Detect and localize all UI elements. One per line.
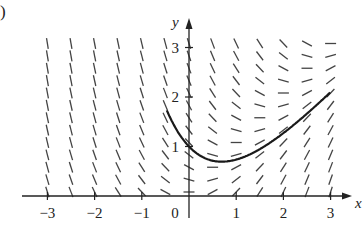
slope-segment (70, 63, 72, 74)
slope-segment (70, 137, 73, 148)
solution-curve (167, 93, 330, 162)
slope-segment (256, 175, 263, 184)
slope-segment (234, 51, 239, 61)
y-axis-label: y (170, 14, 179, 30)
slope-segment (233, 64, 239, 73)
slope-segment (164, 75, 168, 85)
y-tick-label: 3 (172, 40, 180, 56)
x-axis-arrow-icon (342, 193, 352, 200)
slope-segment (209, 101, 216, 110)
slope-segment (94, 38, 96, 49)
slope-segment (280, 151, 287, 160)
slope-segment (232, 89, 240, 97)
slope-segment (280, 163, 286, 172)
slope-segment (280, 40, 288, 48)
slope-segment (93, 112, 96, 123)
slope-segment (117, 75, 120, 86)
slope-segment (69, 174, 73, 184)
slope-segment (117, 38, 119, 49)
slope-segment (140, 63, 143, 74)
slope-segment (279, 52, 288, 59)
slope-segment (163, 100, 167, 110)
slope-segment (233, 76, 240, 85)
slope-segment (208, 140, 218, 145)
slope-segment (232, 102, 241, 109)
slope-segment (329, 162, 333, 172)
slope-segment (256, 64, 264, 72)
slope-segment (93, 125, 96, 136)
slope-segment (46, 75, 48, 86)
x-tick-label: −3 (39, 205, 55, 221)
slope-segment (162, 163, 170, 171)
axis-ticks: −3−2−10123123 (39, 40, 334, 222)
y-axis-arrow-icon (186, 18, 193, 29)
slope-segment (117, 88, 120, 99)
slope-segment (211, 38, 215, 48)
x-axis-label: x (354, 195, 362, 211)
slope-segment (93, 63, 95, 74)
slope-segment (254, 104, 265, 107)
slope-segment (164, 38, 167, 49)
x-tick-label: 1 (232, 205, 240, 221)
slope-segment (302, 41, 312, 46)
slope-segment (255, 90, 265, 95)
slope-segment (305, 175, 309, 185)
slope-segment (326, 77, 335, 84)
slope-segment (257, 187, 263, 196)
slope-segment (139, 138, 144, 148)
slope-segment (280, 139, 288, 147)
slope-segment (255, 77, 264, 84)
slope-segment (326, 66, 336, 71)
slope-segment (93, 100, 96, 111)
slope-segment (207, 178, 218, 181)
slope-field-chart: xy −3−2−10123123 (0, 0, 364, 234)
x-tick-label: −2 (87, 205, 103, 221)
slope-segment (164, 63, 167, 73)
slope-segment (231, 165, 241, 170)
slope-segment (210, 51, 214, 61)
slope-segment (69, 162, 72, 172)
slope-segment (304, 126, 311, 135)
slope-segment (139, 163, 145, 172)
slope-segment (254, 129, 265, 132)
slope-segment (162, 151, 169, 160)
slope-segment (116, 125, 120, 135)
slope-segment (208, 189, 218, 194)
slope-segment (279, 66, 289, 71)
slope-segment (92, 175, 96, 185)
y-tick-label: 1 (172, 139, 180, 155)
slope-segment (139, 150, 144, 160)
slope-segment (70, 50, 72, 61)
slope-segment (93, 150, 97, 160)
slope-segment (46, 174, 49, 185)
slope-segment (70, 125, 73, 136)
slope-segment (140, 51, 143, 62)
slope-segment (164, 51, 167, 62)
slope-segment (305, 162, 310, 172)
slope-segment (278, 79, 289, 82)
slope-segment (70, 112, 73, 123)
slope-segment (328, 150, 332, 160)
slope-segment (210, 88, 216, 97)
slope-segment (327, 101, 334, 110)
x-tick-label: −1 (134, 205, 150, 221)
slope-segment (46, 162, 49, 173)
slope-segment (256, 52, 263, 61)
slope-segment (328, 138, 333, 148)
slope-segment (94, 50, 96, 61)
slope-segment (302, 54, 313, 57)
slope-segment (231, 115, 241, 120)
slope-segment (140, 75, 143, 86)
slope-segment (161, 189, 171, 194)
slope-segment (93, 137, 96, 147)
slope-segment (329, 174, 333, 184)
slope-segment (70, 100, 72, 111)
slope-segment (47, 50, 49, 61)
slope-segment (117, 100, 120, 111)
y-tick-label: 2 (172, 89, 180, 105)
slope-segment (209, 114, 217, 122)
slope-segment (257, 39, 263, 48)
slope-segment (163, 88, 167, 98)
slope-segment (47, 38, 49, 49)
slope-segment (69, 150, 72, 161)
